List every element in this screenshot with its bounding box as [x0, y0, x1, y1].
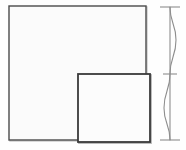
small-square	[78, 74, 150, 142]
diagram-canvas: Overlapping squares with vertical deflec…	[0, 0, 186, 150]
line-drawing-svg	[0, 0, 186, 150]
